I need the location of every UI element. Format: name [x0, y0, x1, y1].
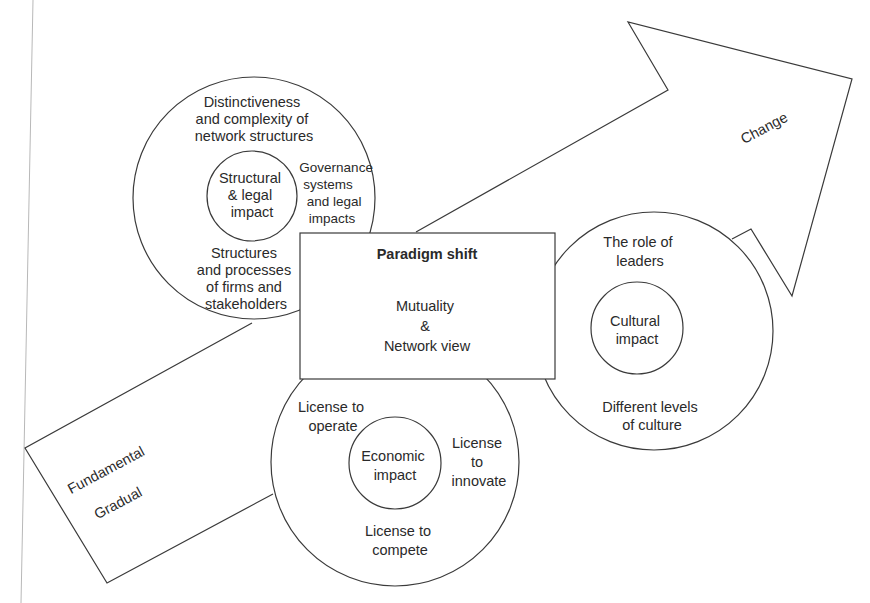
arrow-tail: [25, 323, 273, 583]
paradigm-shift-title: Paradigm shift: [377, 246, 478, 262]
gradual-label: Gradual: [91, 484, 144, 522]
paradigm-shift-diagram: Structural & legal impact Distinctivenes…: [0, 0, 870, 603]
cultural-impact-circle: Cultural impact The role of leaders Diff…: [535, 212, 773, 450]
change-label: Change: [738, 109, 790, 147]
structural-bottom-label: Structures and processes of firms and st…: [197, 245, 295, 312]
structural-top-label: Distinctiveness and complexity of networ…: [195, 94, 313, 144]
page-edge-line: [21, 0, 33, 603]
paradigm-shift-box: Paradigm shift Mutuality & Network view: [300, 233, 555, 379]
